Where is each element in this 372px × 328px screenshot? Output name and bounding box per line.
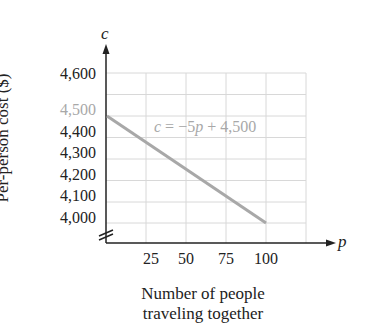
y-tick-4100: 4,100 bbox=[60, 188, 96, 204]
x-axis-label-line-2: traveling together bbox=[118, 304, 288, 324]
y-tick-4500: 4,500 bbox=[60, 102, 96, 118]
grid bbox=[106, 73, 306, 243]
x-axis-label-line-1: Number of people bbox=[118, 284, 288, 304]
y-tick-4000: 4,000 bbox=[60, 210, 96, 226]
x-axis-label: Number of people traveling together bbox=[118, 284, 288, 324]
y-tick-4200: 4,200 bbox=[60, 167, 96, 183]
equation-rhs: + 4,500 bbox=[203, 118, 256, 135]
equation-annotation: c = −5p + 4,500 bbox=[154, 118, 256, 136]
x-tick-100: 100 bbox=[254, 251, 278, 267]
x-tick-75: 75 bbox=[218, 251, 234, 267]
x-tick-50: 50 bbox=[178, 251, 194, 267]
y-tick-4600: 4,600 bbox=[60, 66, 96, 82]
x-tick-25: 25 bbox=[143, 251, 159, 267]
equation-var: p bbox=[195, 118, 203, 135]
equation-middle: = −5 bbox=[161, 118, 195, 135]
plot-area bbox=[0, 0, 372, 328]
y-tick-4300: 4,300 bbox=[60, 145, 96, 161]
y-axis-arrow-icon bbox=[103, 44, 110, 54]
y-tick-4400: 4,400 bbox=[60, 124, 96, 140]
x-axis-arrow-icon bbox=[326, 240, 336, 247]
